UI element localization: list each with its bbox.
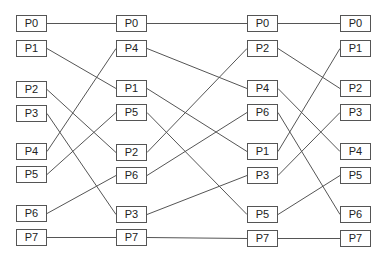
node-box: P5: [116, 104, 147, 121]
connection-line: [147, 113, 247, 215]
node-box: P7: [247, 230, 278, 247]
connection-line: [278, 49, 340, 89]
connection-line: [278, 113, 340, 215]
connection-line: [278, 89, 340, 152]
node-box: P2: [16, 81, 47, 98]
node-box: P2: [340, 80, 371, 97]
node-box: P5: [247, 206, 278, 223]
node-box: P2: [116, 144, 147, 161]
node-box: P5: [16, 166, 47, 183]
connection-line: [278, 49, 340, 152]
node-box: P1: [340, 40, 371, 57]
node-box: P2: [247, 40, 278, 57]
node-box: P0: [116, 15, 147, 32]
connection-line: [147, 176, 247, 215]
connection-line: [147, 49, 247, 153]
node-box: P6: [247, 104, 278, 121]
node-box: P6: [116, 167, 147, 184]
node-box: P1: [116, 80, 147, 97]
connection-line: [47, 114, 116, 215]
node-box: P0: [16, 15, 47, 32]
node-box: P3: [116, 206, 147, 223]
node-box: P6: [340, 206, 371, 223]
connection-lines: [0, 0, 386, 260]
node-box: P4: [247, 80, 278, 97]
connection-line: [147, 113, 247, 176]
node-box: P7: [16, 229, 47, 246]
node-box: P0: [247, 15, 278, 32]
connection-line: [47, 176, 116, 214]
node-box: P3: [340, 104, 371, 121]
node-box: P4: [116, 40, 147, 57]
node-box: P4: [16, 143, 47, 160]
node-box: P1: [16, 40, 47, 57]
connection-line: [47, 49, 116, 89]
connection-line: [278, 113, 340, 176]
node-box: P0: [340, 15, 371, 32]
node-box: P3: [16, 105, 47, 122]
permutation-network-diagram: P0P1P2P3P4P5P6P7P0P4P1P5P2P6P3P7P0P2P4P6…: [0, 0, 386, 260]
connection-line: [147, 49, 247, 89]
connection-line: [47, 49, 116, 152]
node-box: P5: [340, 167, 371, 184]
node-box: P7: [116, 229, 147, 246]
node-box: P6: [16, 205, 47, 222]
connection-line: [147, 238, 247, 239]
connection-line: [147, 89, 247, 152]
connection-line: [278, 176, 340, 215]
node-box: P3: [247, 167, 278, 184]
node-box: P1: [247, 143, 278, 160]
node-box: P7: [340, 230, 371, 247]
node-box: P4: [340, 143, 371, 160]
